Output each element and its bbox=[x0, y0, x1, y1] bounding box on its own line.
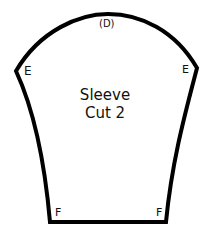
cut-instruction: Cut 2 bbox=[0, 105, 210, 122]
piece-name: Sleeve bbox=[0, 87, 210, 104]
label-e-right: E bbox=[182, 64, 189, 75]
label-f-left: F bbox=[55, 207, 61, 218]
label-e-left: E bbox=[24, 65, 32, 77]
label-d: (D) bbox=[99, 19, 115, 29]
label-f-right: F bbox=[156, 207, 162, 218]
